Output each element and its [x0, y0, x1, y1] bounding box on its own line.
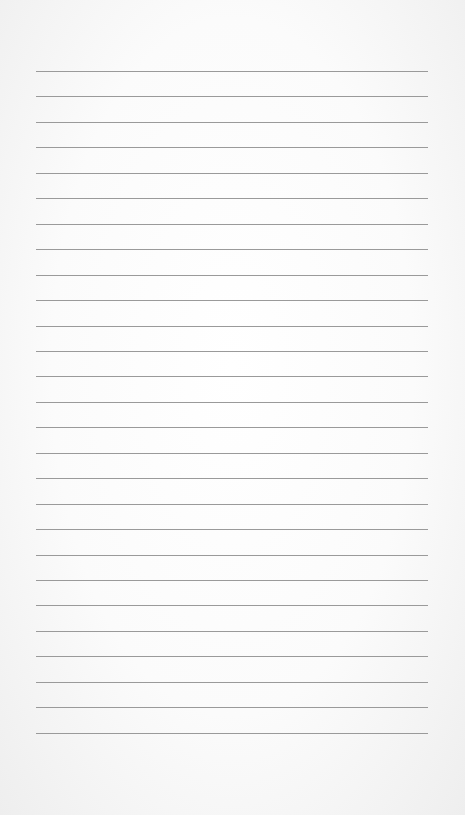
ruled-line [36, 478, 428, 479]
ruled-line [36, 249, 428, 250]
ruled-line [36, 198, 428, 199]
ruled-line [36, 504, 428, 505]
ruled-line [36, 529, 428, 530]
ruled-line [36, 605, 428, 606]
ruled-line [36, 224, 428, 225]
ruled-line [36, 427, 428, 428]
ruled-line [36, 555, 428, 556]
ruled-line [36, 453, 428, 454]
ruled-line [36, 631, 428, 632]
ruled-line [36, 682, 428, 683]
ruled-line [36, 173, 428, 174]
ruled-line [36, 71, 428, 72]
ruled-line [36, 96, 428, 97]
ruled-line [36, 300, 428, 301]
ruled-line [36, 733, 428, 734]
ruled-line [36, 402, 428, 403]
ruled-line [36, 580, 428, 581]
ruled-line [36, 326, 428, 327]
lined-paper [0, 0, 465, 815]
ruled-line [36, 656, 428, 657]
ruled-line [36, 275, 428, 276]
ruled-line [36, 122, 428, 123]
ruled-line [36, 351, 428, 352]
ruled-line [36, 376, 428, 377]
ruled-line [36, 707, 428, 708]
ruled-line [36, 147, 428, 148]
